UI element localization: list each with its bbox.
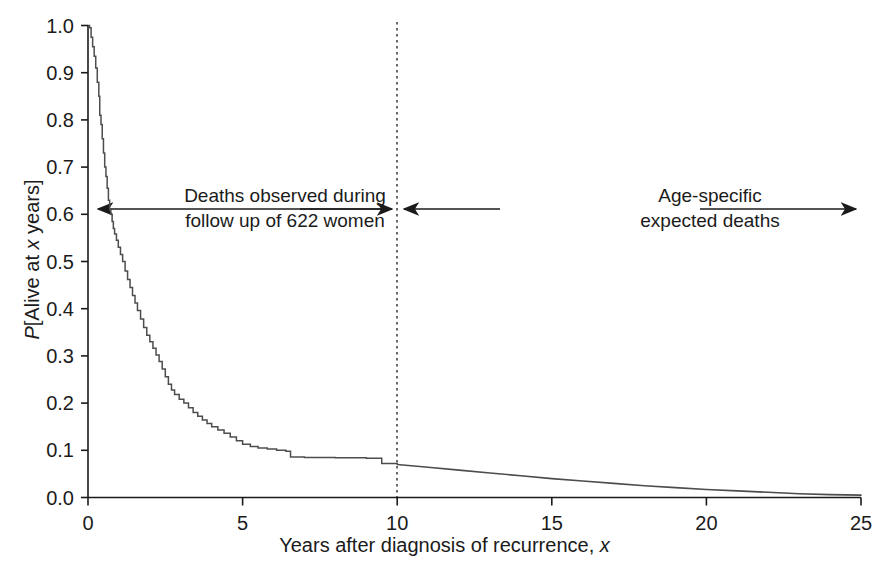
x-tick-label: 10 (386, 512, 408, 535)
y-axis-title: P[Alive at x years] (21, 110, 44, 410)
expected-survival-curve (397, 464, 861, 495)
x-axis-ticks (88, 498, 861, 506)
annotation-observed-line1: Deaths observed during (168, 183, 402, 208)
y-tick-label: 1.0 (0, 14, 74, 37)
annotation-expected-line1: Age-specific (594, 183, 826, 208)
annotation-observed-deaths: Deaths observed during follow up of 622 … (168, 183, 402, 233)
observed-survival-curve (88, 26, 397, 464)
x-axis-title-main: Years after diagnosis of recurrence, (279, 534, 600, 556)
plot-canvas (0, 0, 889, 579)
y-axis-title-x: x (21, 240, 43, 250)
annotation-observed-line2: follow up of 622 women (168, 208, 402, 233)
axis-lines (88, 26, 861, 498)
annotation-expected-deaths: Age-specific expected deaths (594, 183, 826, 233)
annotation-expected-line2: expected deaths (594, 208, 826, 233)
x-tick-label: 25 (850, 512, 872, 535)
x-tick-label: 15 (541, 512, 563, 535)
x-tick-label: 5 (237, 512, 248, 535)
y-axis-title-mid: [Alive at (21, 250, 43, 327)
y-axis-ticks (81, 26, 88, 498)
y-tick-label: 0.9 (0, 61, 74, 84)
survival-chart-figure: 0.00.10.20.30.40.50.60.70.80.91.0 051015… (0, 0, 889, 579)
y-tick-label: 0.0 (0, 486, 74, 509)
x-tick-label: 20 (695, 512, 717, 535)
y-tick-label: 0.1 (0, 439, 74, 462)
y-axis-title-end: years] (21, 179, 43, 239)
y-axis-title-p: P (21, 326, 43, 339)
x-axis-title-x: x (600, 534, 610, 556)
x-tick-label: 0 (82, 512, 93, 535)
x-axis-title: Years after diagnosis of recurrence, x (0, 534, 889, 557)
